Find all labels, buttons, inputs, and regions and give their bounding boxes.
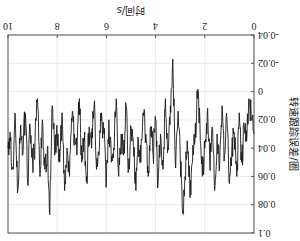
- x-tick-label: 4: [153, 21, 158, 32]
- y-tick-label: 0.06: [258, 171, 276, 182]
- line-chart: 0246810 -0.04-0.0200.020.040.060.080.1 时…: [0, 0, 300, 241]
- series-line: [8, 59, 254, 215]
- x-tick-label: 6: [104, 21, 109, 32]
- x-tick-label: 10: [3, 21, 13, 32]
- x-tick-label: 0: [252, 21, 257, 32]
- x-tick-label: 2: [202, 21, 207, 32]
- y-tick-label: 0.1: [258, 228, 271, 239]
- chart-figure: 0246810 -0.04-0.0200.020.040.060.080.1 时…: [0, 0, 300, 241]
- y-tick-label: -0.04: [258, 30, 279, 41]
- y-axis-label: 转速跟踪误差/圈: [288, 97, 300, 170]
- y-tick-label: -0.02: [258, 58, 279, 69]
- x-axis-label: 时间/s: [117, 5, 146, 17]
- y-tick-label: 0.02: [258, 114, 276, 125]
- x-tick-label: 8: [55, 21, 60, 32]
- y-tick-label: 0.08: [258, 199, 276, 210]
- y-tick-label: 0: [258, 86, 263, 97]
- y-axis-ticks: -0.04-0.0200.020.040.060.080.1: [251, 30, 279, 239]
- y-tick-label: 0.04: [258, 143, 276, 154]
